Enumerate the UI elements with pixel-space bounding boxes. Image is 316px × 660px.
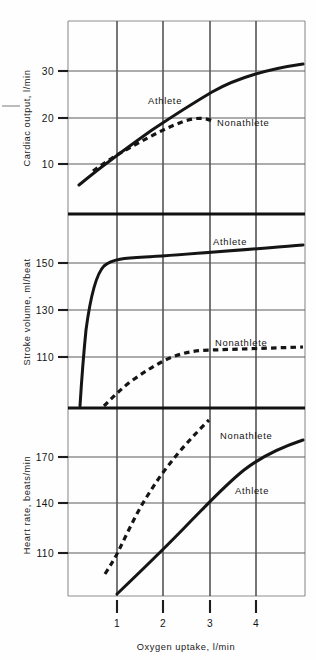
- panel3-y-axis-title: Heart rate, beats/min: [22, 456, 32, 554]
- panel2-label-athlete: Athlete: [213, 236, 247, 247]
- panel1-y-axis-title: Cardiac output, l/min: [22, 70, 32, 167]
- panel3-ytick-0: 170: [36, 452, 54, 463]
- panel2-label-nonathlete: Nonathlete: [215, 337, 267, 348]
- xtick-label-3: 4: [253, 618, 259, 629]
- panel2-y-axis-title: Stroke volume, ml/beat: [22, 258, 32, 365]
- panel2-ytick-1: 130: [36, 305, 54, 316]
- panel1-ytick-0: 30: [42, 66, 54, 77]
- panel3-label-nonathlete: Nonathlete: [220, 430, 272, 441]
- xtick-label-0: 1: [114, 618, 120, 629]
- xtick-label-2: 3: [207, 618, 213, 629]
- panel1-ytick-1: 20: [42, 113, 54, 124]
- x-axis-title: Oxygen uptake, l/min: [137, 642, 235, 652]
- panel1-ytick-2: 10: [42, 159, 54, 170]
- xtick-label-1: 2: [160, 618, 166, 629]
- chart-svg: 30 20 10 Cardiac output, l/min Athlete N…: [0, 0, 316, 660]
- panel2-ytick-0: 150: [36, 258, 54, 269]
- panel1-label-athlete: Athlete: [148, 95, 182, 106]
- panel3-label-athlete: Athlete: [235, 485, 269, 496]
- panel3-ytick-2: 110: [37, 548, 54, 559]
- panel3-ytick-1: 140: [36, 498, 54, 509]
- figure-panel-stack: 30 20 10 Cardiac output, l/min Athlete N…: [0, 0, 316, 660]
- panel2-ytick-2: 110: [37, 352, 54, 363]
- panel1-label-nonathlete: Nonathlete: [217, 117, 269, 128]
